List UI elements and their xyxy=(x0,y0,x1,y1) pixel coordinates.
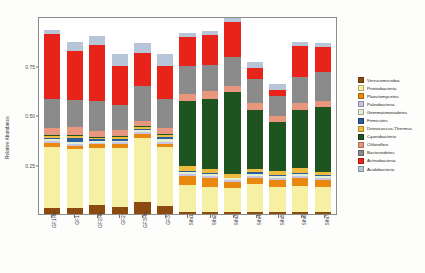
bar-segment[interactable] xyxy=(292,46,308,77)
legend-item[interactable]: Verrucomicrobia xyxy=(358,76,424,84)
bar-segment[interactable] xyxy=(112,105,128,130)
bar-segment[interactable] xyxy=(292,186,308,212)
stacked-bar[interactable] xyxy=(269,84,285,214)
bar-segment[interactable] xyxy=(202,178,218,186)
bar-segment[interactable] xyxy=(292,77,308,102)
bar-segment[interactable] xyxy=(224,57,240,85)
bar-segment[interactable] xyxy=(247,68,263,80)
bar-segment[interactable] xyxy=(157,99,173,128)
bar-segment[interactable] xyxy=(247,184,263,211)
bar-column[interactable] xyxy=(289,18,312,214)
legend-item[interactable]: Cyanobacteria xyxy=(358,133,424,141)
bar-column[interactable] xyxy=(266,18,289,214)
bar-column[interactable] xyxy=(311,18,334,214)
bar-segment[interactable] xyxy=(179,66,195,93)
stacked-bar[interactable] xyxy=(157,54,173,214)
bar-segment[interactable] xyxy=(315,47,331,71)
bar-segment[interactable] xyxy=(179,176,195,185)
bar-segment[interactable] xyxy=(269,187,285,212)
bar-column[interactable] xyxy=(131,18,154,214)
bar-segment[interactable] xyxy=(89,101,105,130)
bar-column[interactable] xyxy=(221,18,244,214)
stacked-bar[interactable] xyxy=(112,54,128,214)
bar-segment[interactable] xyxy=(89,36,105,45)
bar-segment[interactable] xyxy=(112,207,128,214)
bar-column[interactable] xyxy=(109,18,132,214)
bar-segment[interactable] xyxy=(202,65,218,90)
bar-segment[interactable] xyxy=(89,148,105,205)
bar-column[interactable] xyxy=(41,18,64,214)
legend-item[interactable]: Proteobacteria xyxy=(358,84,424,92)
bar-segment[interactable] xyxy=(179,37,195,66)
legend-item[interactable]: Chloroflexi xyxy=(358,141,424,149)
bar-segment[interactable] xyxy=(202,91,218,99)
bar-segment[interactable] xyxy=(44,128,60,135)
bar-segment[interactable] xyxy=(224,188,240,212)
bar-segment[interactable] xyxy=(202,99,218,170)
bar-segment[interactable] xyxy=(224,182,240,189)
stacked-bar[interactable] xyxy=(315,43,331,214)
bar-segment[interactable] xyxy=(157,206,173,214)
stacked-bar[interactable] xyxy=(179,33,195,214)
stacked-bar[interactable] xyxy=(44,30,60,214)
legend-item[interactable]: Deinococcus-Thermus xyxy=(358,125,424,133)
bar-segment[interactable] xyxy=(134,138,150,203)
bar-segment[interactable] xyxy=(112,54,128,66)
bar-segment[interactable] xyxy=(157,54,173,66)
stacked-bar[interactable] xyxy=(292,42,308,214)
legend-item[interactable]: Firmicutes xyxy=(358,116,424,124)
legend-item[interactable]: Bacteroidetes xyxy=(358,149,424,157)
bar-segment[interactable] xyxy=(224,92,240,173)
bar-column[interactable] xyxy=(64,18,87,214)
bar-segment[interactable] xyxy=(67,100,83,127)
bar-segment[interactable] xyxy=(269,180,285,187)
bar-segment[interactable] xyxy=(269,96,285,116)
bar-column[interactable] xyxy=(244,18,267,214)
bar-segment[interactable] xyxy=(315,72,331,101)
legend-item[interactable]: Actinobacteria xyxy=(358,157,424,165)
legend-item[interactable]: Paleobacteria xyxy=(358,100,424,108)
bar-segment[interactable] xyxy=(67,42,83,51)
bar-segment[interactable] xyxy=(202,35,218,65)
stacked-bar[interactable] xyxy=(89,36,105,214)
bar-segment[interactable] xyxy=(292,103,308,110)
bar-segment[interactable] xyxy=(292,178,308,186)
bar-segment[interactable] xyxy=(157,147,173,206)
bar-segment[interactable] xyxy=(67,208,83,214)
stacked-bar[interactable] xyxy=(224,18,240,214)
bar-segment[interactable] xyxy=(247,110,263,169)
bar-segment[interactable] xyxy=(292,110,308,169)
bar-segment[interactable] xyxy=(269,122,285,171)
bar-segment[interactable] xyxy=(202,187,218,212)
bar-segment[interactable] xyxy=(179,101,195,166)
bar-segment[interactable] xyxy=(112,66,128,105)
bar-segment[interactable] xyxy=(157,66,173,99)
bar-segment[interactable] xyxy=(224,22,240,57)
legend-item[interactable]: Gemmatimonadetes xyxy=(358,108,424,116)
bar-segment[interactable] xyxy=(89,45,105,102)
stacked-bar[interactable] xyxy=(247,62,263,214)
bar-segment[interactable] xyxy=(247,79,263,103)
bar-segment[interactable] xyxy=(179,94,195,102)
bar-column[interactable] xyxy=(154,18,177,214)
legend-item[interactable]: Acidobacteria xyxy=(358,165,424,173)
bar-segment[interactable] xyxy=(112,148,128,207)
bar-segment[interactable] xyxy=(44,99,60,128)
stacked-bar[interactable] xyxy=(202,31,218,214)
bar-segment[interactable] xyxy=(247,103,263,110)
bar-segment[interactable] xyxy=(44,147,60,208)
bar-segment[interactable] xyxy=(67,149,83,208)
bar-segment[interactable] xyxy=(134,53,150,86)
legend-item[interactable]: Planctomycetes xyxy=(358,92,424,100)
bar-segment[interactable] xyxy=(44,34,60,99)
bar-column[interactable] xyxy=(86,18,109,214)
bar-segment[interactable] xyxy=(315,180,331,187)
bar-segment[interactable] xyxy=(134,43,150,53)
bar-segment[interactable] xyxy=(315,107,331,172)
stacked-bar[interactable] xyxy=(67,42,83,214)
bar-segment[interactable] xyxy=(179,185,195,211)
bar-segment[interactable] xyxy=(224,86,240,93)
bar-segment[interactable] xyxy=(315,187,331,211)
bar-segment[interactable] xyxy=(67,51,83,100)
bar-column[interactable] xyxy=(199,18,222,214)
